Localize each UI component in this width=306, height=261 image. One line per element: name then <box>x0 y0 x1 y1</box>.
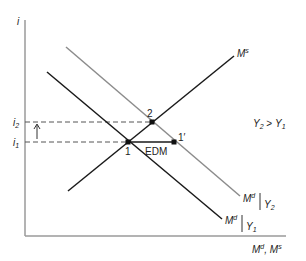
point-1-prime-label: 1′ <box>178 132 186 143</box>
md-y1-label: Md Y1 <box>225 214 257 233</box>
y-axis-label: i <box>17 16 20 27</box>
money-market-diagram: i Md, Ms i2 i1 1 2 1′ EDM Ms Md Y2 Md Y1… <box>0 0 306 261</box>
point-2-label: 2 <box>147 108 153 119</box>
income-condition-label: Y2 > Y1 <box>253 118 286 130</box>
x-axis-label: Md, Ms <box>252 243 282 255</box>
edm-label: EDM <box>145 146 167 157</box>
point-1 <box>126 140 131 145</box>
i1-label: i1 <box>13 137 19 149</box>
up-arrow-icon <box>34 124 40 139</box>
svg-text:Y2: Y2 <box>264 199 275 211</box>
md-y2-label: Md Y2 <box>243 192 275 211</box>
svg-text:Y1: Y1 <box>246 221 257 233</box>
point-1-prime <box>172 140 177 145</box>
point-1-label: 1 <box>125 146 131 157</box>
svg-text:Md: Md <box>225 214 238 226</box>
md-y1-curve <box>47 72 222 219</box>
ms-label: Ms <box>237 47 249 59</box>
svg-text:Md: Md <box>243 192 256 204</box>
i2-label: i2 <box>13 117 19 129</box>
point-2 <box>150 120 155 125</box>
